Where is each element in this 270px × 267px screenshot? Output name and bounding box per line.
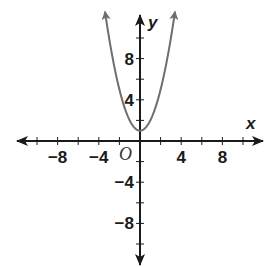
y-tick-label: 8 [125,50,134,69]
x-tick-label: 8 [218,148,227,167]
origin-label: O [119,144,132,164]
y-tick-label: 4 [125,91,135,110]
x-tick-label: −8 [48,148,67,167]
coordinate-plane: −8−44884−4−8 x y O [0,0,270,267]
x-tick-label: −4 [89,148,109,167]
y-tick-label: −4 [115,173,135,192]
y-tick-label: −8 [115,214,134,233]
y-axis-label: y [147,13,159,32]
x-axis-label: x [245,114,257,133]
x-tick-label: 4 [176,148,186,167]
